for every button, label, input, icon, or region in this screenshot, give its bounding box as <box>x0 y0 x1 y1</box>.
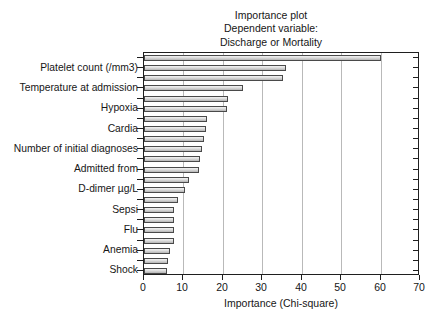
x-axis-tick-label: 60 <box>360 281 400 293</box>
y-axis-tick <box>137 57 143 58</box>
y-axis-tick <box>137 260 143 261</box>
y-axis-tick <box>137 270 143 271</box>
y-axis-tick <box>137 250 143 251</box>
x-axis-tick-label: 40 <box>281 281 321 293</box>
y-axis-tick <box>137 229 143 230</box>
y-axis-label: D-dimer µg/L <box>2 183 138 194</box>
y-axis-label: Shock <box>2 264 138 275</box>
chart-title-block: Importance plot Dependent variable: Disc… <box>181 9 361 49</box>
bar <box>144 106 227 112</box>
y-axis-tick <box>137 138 143 139</box>
right-axis-tick <box>413 189 419 190</box>
chart-canvas: Importance plot Dependent variable: Disc… <box>0 0 443 318</box>
right-axis-tick <box>413 179 419 180</box>
right-axis-tick <box>413 169 419 170</box>
right-axis-tick <box>413 118 419 119</box>
plot-area <box>143 52 419 275</box>
bar <box>144 156 200 162</box>
bar <box>144 75 283 81</box>
right-axis-tick <box>413 67 419 68</box>
right-axis-tick <box>413 148 419 149</box>
bar <box>144 268 167 274</box>
y-axis-labels: Platelet count (/mm3)Temperature at admi… <box>0 0 138 318</box>
bar <box>144 146 202 152</box>
right-axis-tick <box>413 57 419 58</box>
y-axis-tick <box>137 77 143 78</box>
y-axis-label: Temperature at admission <box>2 82 138 93</box>
y-axis-tick <box>137 118 143 119</box>
x-axis-tick <box>380 275 381 280</box>
right-axis-tick <box>413 219 419 220</box>
right-axis-tick <box>413 77 419 78</box>
y-axis-tick <box>137 158 143 159</box>
x-axis-tick <box>182 275 183 280</box>
bar <box>144 227 174 233</box>
right-axis-tick <box>413 138 419 139</box>
y-axis-tick <box>137 108 143 109</box>
x-axis-tick-label: 10 <box>162 281 202 293</box>
x-axis-tick <box>301 275 302 280</box>
bar <box>144 248 170 254</box>
y-axis-tick <box>137 148 143 149</box>
bar <box>144 258 168 264</box>
y-axis-label: Flu <box>2 224 138 235</box>
x-axis-tick <box>261 275 262 280</box>
chart-subtitle-line-2: Discharge or Mortality <box>181 36 361 49</box>
bar <box>144 65 286 71</box>
y-axis-tick <box>137 199 143 200</box>
y-axis-label: Hypoxia <box>2 102 138 113</box>
right-axis-tick <box>413 209 419 210</box>
y-axis-tick <box>137 98 143 99</box>
bar <box>144 187 185 193</box>
bar <box>144 207 174 213</box>
y-axis-tick <box>137 67 143 68</box>
bar <box>144 55 381 61</box>
chart-subtitle-line-1: Dependent variable: <box>181 22 361 35</box>
right-axis-tick <box>413 250 419 251</box>
gridline <box>381 53 382 274</box>
right-axis-tick <box>413 260 419 261</box>
y-axis-label: Anemia <box>2 244 138 255</box>
bar <box>144 177 189 183</box>
y-axis-label: Sepsi <box>2 204 138 215</box>
y-axis-tick <box>137 128 143 129</box>
x-axis-tick-label: 20 <box>202 281 242 293</box>
bar <box>144 238 174 244</box>
y-axis-label: Number of initial diagnoses <box>2 143 138 154</box>
y-axis-label: Cardia <box>2 123 138 134</box>
right-axis-tick <box>413 87 419 88</box>
x-axis-tick-label: 70 <box>399 281 439 293</box>
gridline <box>262 53 263 274</box>
bar <box>144 96 228 102</box>
x-axis-tick-label: 50 <box>320 281 360 293</box>
x-axis-tick <box>340 275 341 280</box>
bar <box>144 126 206 132</box>
y-axis-label: Admitted from <box>2 163 138 174</box>
x-axis-tick <box>419 275 420 280</box>
y-axis-tick <box>137 169 143 170</box>
bar <box>144 116 207 122</box>
y-axis-tick <box>137 219 143 220</box>
y-axis-tick <box>137 189 143 190</box>
right-axis-tick <box>413 158 419 159</box>
y-axis-tick <box>137 240 143 241</box>
y-axis-tick <box>137 87 143 88</box>
x-axis-tick <box>143 275 144 280</box>
bar <box>144 197 178 203</box>
bar <box>144 85 243 91</box>
right-axis-tick <box>413 108 419 109</box>
bar <box>144 136 204 142</box>
y-axis-tick <box>137 209 143 210</box>
y-axis-tick <box>137 179 143 180</box>
right-axis-tick <box>413 128 419 129</box>
x-axis-title: Importance (Chi-square) <box>143 297 419 309</box>
y-axis-label: Platelet count (/mm3) <box>2 62 138 73</box>
right-axis-tick <box>413 199 419 200</box>
right-axis-tick <box>413 270 419 271</box>
x-axis-tick-label: 30 <box>241 281 281 293</box>
right-axis-tick <box>413 229 419 230</box>
right-axis-tick <box>413 240 419 241</box>
bar <box>144 167 199 173</box>
gridline <box>341 53 342 274</box>
x-axis-tick <box>222 275 223 280</box>
